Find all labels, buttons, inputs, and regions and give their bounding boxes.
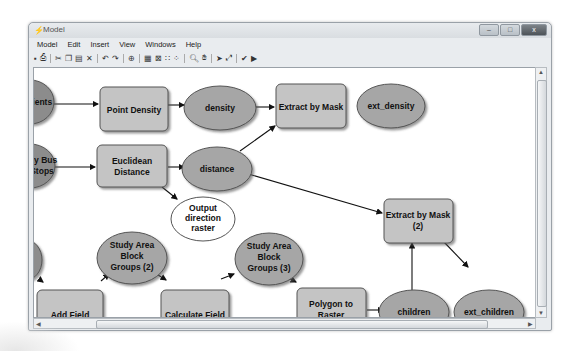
separator bbox=[211, 54, 212, 63]
input-partial-left[interactable] bbox=[34, 240, 42, 280]
fixed-zoom-out-icon[interactable]: ⁘ bbox=[173, 54, 180, 63]
horizontal-scroll-thumb[interactable] bbox=[96, 320, 488, 329]
menu-windows[interactable]: Windows bbox=[145, 39, 175, 51]
full-extent-icon[interactable]: ⊠ bbox=[155, 54, 162, 63]
menu-help[interactable]: Help bbox=[186, 39, 201, 51]
label-extract-by-mask-2b: (2) bbox=[413, 221, 424, 231]
menu-bar: Model Edit Insert View Windows Help bbox=[29, 39, 551, 51]
add-data-icon[interactable]: ⊕ bbox=[128, 54, 135, 63]
tool-euclidean-distance[interactable] bbox=[97, 145, 167, 187]
window-title: Model bbox=[43, 25, 65, 34]
label-density: density bbox=[205, 103, 235, 113]
zoom-in-icon[interactable]: 🔍︎ bbox=[189, 54, 199, 63]
validate-icon[interactable]: ✔ bbox=[241, 54, 248, 63]
label-distance: distance bbox=[200, 164, 235, 174]
horizontal-scrollbar[interactable]: ◀ ▶ bbox=[33, 318, 536, 329]
label-polygon-to-raster-2: Raster bbox=[318, 310, 345, 317]
label-children: children bbox=[397, 307, 430, 317]
connect-icon[interactable]: ⤢ bbox=[226, 53, 232, 63]
label-ext-density: ext_density bbox=[368, 101, 415, 111]
model-canvas[interactable]: Clients Point Density density Extract by… bbox=[33, 67, 536, 318]
label-study-area-2: Study Area bbox=[110, 240, 155, 250]
menu-insert[interactable]: Insert bbox=[90, 39, 109, 51]
label-calculate-field: Calculate Field bbox=[165, 310, 225, 317]
scroll-right-arrow-icon[interactable]: ▶ bbox=[528, 320, 533, 327]
separator bbox=[97, 54, 98, 63]
label-ext-children: ext_children bbox=[464, 307, 514, 317]
vertical-scroll-thumb[interactable] bbox=[537, 80, 547, 307]
label-clients: Clients bbox=[34, 97, 52, 107]
label-output-direction-raster-3: raster bbox=[191, 223, 215, 233]
menu-view[interactable]: View bbox=[119, 39, 135, 51]
label-add-field: Add Field bbox=[51, 310, 90, 317]
cut-icon[interactable]: ✂ bbox=[55, 54, 62, 63]
vertical-scrollbar[interactable]: ▲ ▼ bbox=[535, 67, 547, 318]
fixed-zoom-in-icon[interactable]: ∷ bbox=[165, 54, 170, 63]
title-bar[interactable]: ⚡ Model – □ x bbox=[29, 23, 551, 38]
menu-model[interactable]: Model bbox=[37, 39, 57, 51]
model-window: ⚡ Model – □ x Model Edit Insert View Win… bbox=[28, 22, 552, 331]
separator bbox=[184, 54, 185, 63]
maximize-button[interactable]: □ bbox=[500, 24, 520, 36]
separator bbox=[50, 54, 51, 63]
run-icon[interactable]: ▶ bbox=[251, 54, 257, 63]
save-icon[interactable]: ▪ bbox=[34, 54, 37, 63]
auto-layout-icon[interactable]: ▦ bbox=[144, 54, 152, 63]
label-study-area-3: Study Area bbox=[247, 241, 292, 251]
redo-icon[interactable]: ↷ bbox=[112, 54, 119, 63]
label-extract-by-mask: Extract by Mask bbox=[279, 102, 344, 112]
label-output-direction-raster-2: direction bbox=[185, 213, 221, 223]
label-point-density: Point Density bbox=[107, 105, 162, 115]
label-euclidean-2: Distance bbox=[114, 167, 150, 177]
scroll-down-arrow-icon[interactable]: ▼ bbox=[538, 310, 544, 316]
separator bbox=[236, 54, 237, 63]
minimize-button[interactable]: – bbox=[479, 24, 499, 36]
label-output-direction-raster: Output bbox=[189, 203, 217, 213]
undo-icon[interactable]: ↶ bbox=[102, 54, 109, 63]
paste-icon[interactable]: ▤ bbox=[75, 54, 83, 63]
scroll-up-arrow-icon[interactable]: ▲ bbox=[538, 69, 544, 75]
label-study-area-2c: Groups (2) bbox=[111, 262, 154, 272]
toolbar: ▪ ⎙ ✂ ❐ ▤ ✕ ↶ ↷ ⊕ ▦ ⊠ ∷ ⁘ 🔍︎ ✋︎ ➤ ⤢ ✔ ▶ bbox=[29, 52, 551, 64]
label-extract-by-mask-2: Extract by Mask bbox=[386, 210, 451, 220]
label-city-bus-stops-2: Stops bbox=[34, 166, 54, 176]
separator bbox=[123, 54, 124, 63]
label-study-area-3c: Groups (3) bbox=[248, 263, 291, 273]
label-polygon-to-raster: Polygon to bbox=[309, 299, 353, 309]
label-city-bus-stops: City Bus bbox=[34, 155, 58, 165]
print-icon[interactable]: ⎙ bbox=[40, 53, 46, 63]
close-button[interactable]: x bbox=[521, 24, 547, 36]
menu-edit[interactable]: Edit bbox=[67, 39, 80, 51]
label-euclidean: Euclidean bbox=[112, 156, 152, 166]
copy-icon[interactable]: ❐ bbox=[65, 54, 72, 63]
background-shadow bbox=[0, 321, 80, 351]
delete-icon[interactable]: ✕ bbox=[86, 54, 93, 63]
select-icon[interactable]: ➤ bbox=[216, 54, 223, 63]
separator bbox=[139, 54, 140, 63]
label-study-area-3b: Block bbox=[257, 252, 280, 262]
label-study-area-2b: Block bbox=[120, 251, 143, 261]
pan-icon[interactable]: ✋︎ bbox=[202, 53, 207, 63]
